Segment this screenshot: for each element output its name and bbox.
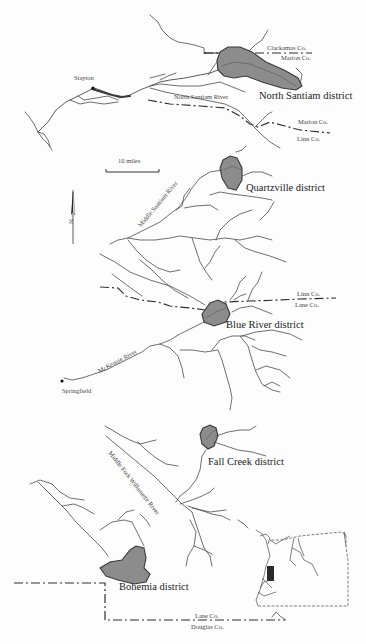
river-line (70, 100, 118, 104)
district-bohemia (100, 546, 150, 584)
river-line (264, 382, 280, 386)
river-line (112, 274, 142, 296)
river-line (248, 272, 262, 300)
inset-river (258, 592, 276, 596)
district-label-blue-river: Blue River district (226, 320, 304, 331)
river-line (232, 306, 272, 314)
river-line (140, 514, 150, 526)
river-line (110, 238, 128, 244)
river-line (194, 546, 212, 554)
river-line (30, 480, 84, 500)
river-line (38, 482, 108, 556)
river-line (230, 276, 246, 300)
district-label-bohemia: Bohemia district (119, 582, 189, 593)
county-label-marion: Marion Co. (298, 119, 328, 126)
river-line (216, 210, 252, 240)
district-fall-creek (200, 425, 218, 449)
scale-bar (106, 169, 159, 172)
river-line (252, 346, 286, 356)
river-line (62, 504, 94, 514)
river-line (272, 612, 286, 620)
river-line (235, 240, 286, 262)
district-label-quartzville: Quartzville district (246, 183, 325, 194)
north-arrow-icon (71, 190, 75, 244)
river-line (92, 89, 130, 97)
town-label-springfield: Springfield (62, 388, 91, 395)
county-label-clackamas: Clackamas Co. (267, 45, 306, 52)
town-dot-stayton (91, 86, 94, 89)
inset-river (290, 538, 296, 566)
scale-bar-label: 10 miles (118, 158, 140, 165)
river-line (128, 240, 180, 272)
river-line (150, 82, 245, 92)
river-line (160, 344, 184, 378)
river-line (238, 520, 248, 528)
district-label-fall-creek: Fall Creek district (208, 457, 284, 468)
map-canvas: Stayton Springfield Clackamas Co. Marion… (0, 0, 366, 644)
river-line (180, 488, 214, 504)
town-label-stayton: Stayton (74, 75, 94, 82)
river-line (236, 146, 246, 152)
river-line (128, 236, 272, 240)
county-label-linn: Linn Co. (297, 136, 320, 143)
river-line (38, 70, 218, 132)
inset-river (292, 548, 318, 576)
river-line (192, 238, 212, 280)
river-line (176, 188, 190, 210)
river-line (160, 73, 176, 80)
county-label-douglas: Douglas Co. (191, 624, 224, 631)
river-line (234, 294, 246, 300)
district-quartzville (220, 156, 242, 190)
county-label-lane-2: Lane Co. (195, 613, 219, 620)
river-line (214, 442, 266, 456)
river-line (192, 508, 226, 512)
county-label-lane: Lane Co. (295, 302, 319, 309)
town-dot-springfield (60, 379, 63, 382)
north-arrow-label: N (67, 219, 74, 224)
river-line (100, 254, 205, 305)
river-line (176, 450, 206, 502)
river-line (100, 520, 144, 546)
river-line (216, 426, 256, 436)
river-line (118, 510, 134, 520)
inset-border (344, 532, 346, 546)
river-line (242, 172, 272, 176)
county-label-marion-top: Marion Co. (281, 55, 311, 62)
river-label-north-santiam: North Santiam River (174, 94, 228, 101)
river-line (180, 350, 232, 410)
river-line (256, 366, 290, 378)
river-line (186, 520, 196, 566)
river-line (106, 436, 204, 548)
district-label-north-santiam: North Santiam district (259, 91, 352, 102)
river-line (78, 96, 118, 100)
location-box (267, 566, 274, 581)
river-line (150, 15, 204, 53)
county-boundary (148, 100, 330, 133)
river-line (150, 74, 165, 78)
river-line (138, 442, 178, 466)
river-line (184, 205, 218, 210)
river-line (260, 202, 274, 220)
river-line (205, 246, 220, 268)
county-label-linn-2: Linn Co. (297, 291, 320, 298)
river-line (240, 336, 280, 392)
